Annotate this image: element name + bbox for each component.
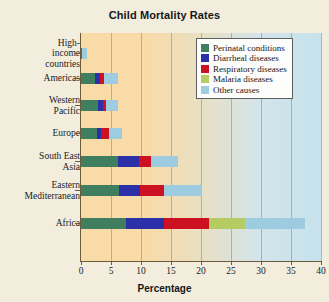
y-axis-label-line: Eastern bbox=[0, 180, 80, 191]
bar-segment bbox=[151, 156, 178, 167]
chart-legend: Perinatal conditionsDiarrheal diseasesRe… bbox=[196, 38, 293, 99]
x-axis-tick-label: 20 bbox=[189, 266, 213, 276]
y-axis-label-line: Western bbox=[0, 95, 80, 106]
x-axis-tick bbox=[171, 261, 172, 265]
y-axis-tick bbox=[75, 53, 81, 54]
legend-label: Diarrheal diseases bbox=[213, 53, 279, 63]
x-axis-tick-label: 30 bbox=[249, 266, 273, 276]
legend-label: Perinatal conditions bbox=[213, 43, 285, 53]
y-axis-label-line: Mediterranean bbox=[0, 191, 80, 202]
bar-europe[interactable] bbox=[81, 128, 122, 139]
y-axis-label-line: income bbox=[0, 48, 80, 59]
bar-segment bbox=[140, 185, 165, 196]
y-axis-label-line: Europe bbox=[0, 128, 80, 139]
legend-item[interactable]: Other causes bbox=[201, 85, 287, 95]
bar-south-east-asia[interactable] bbox=[81, 156, 178, 167]
legend-swatch-icon bbox=[201, 54, 209, 62]
bar-high-income-countries[interactable] bbox=[81, 48, 87, 59]
x-axis-tick bbox=[81, 261, 82, 265]
bar-segment bbox=[245, 218, 305, 229]
y-axis-label: Americas bbox=[0, 73, 80, 84]
y-axis-label: Africa bbox=[0, 218, 80, 229]
x-axis-tick-label: 5 bbox=[99, 266, 123, 276]
legend-item[interactable]: Malaria diseases bbox=[201, 74, 287, 84]
y-axis-label-line: High- bbox=[0, 38, 80, 49]
legend-item[interactable]: Perinatal conditions bbox=[201, 43, 287, 53]
bar-segment bbox=[126, 218, 164, 229]
bar-segment bbox=[106, 100, 117, 111]
x-axis-tick bbox=[261, 261, 262, 265]
bar-segment bbox=[209, 218, 244, 229]
bar-segment bbox=[82, 48, 87, 59]
y-axis-label: EasternMediterranean bbox=[0, 180, 80, 201]
legend-label: Malaria diseases bbox=[213, 74, 273, 84]
bar-eastern-mediterranean[interactable] bbox=[81, 185, 202, 196]
legend-label: Other causes bbox=[213, 85, 259, 95]
legend-swatch-icon bbox=[201, 75, 209, 83]
bar-segment bbox=[139, 156, 151, 167]
legend-swatch-icon bbox=[201, 44, 209, 52]
y-axis-tick bbox=[75, 105, 81, 106]
bar-africa[interactable] bbox=[81, 218, 305, 229]
chart-container: Child Mortality Rates High-incomecountri… bbox=[0, 0, 329, 302]
x-axis-tick-label: 40 bbox=[309, 266, 329, 276]
x-axis-tick bbox=[201, 261, 202, 265]
legend-swatch-icon bbox=[201, 65, 209, 73]
bar-segment bbox=[104, 73, 117, 84]
y-axis-label-line: Asia bbox=[0, 162, 80, 173]
bar-americas[interactable] bbox=[81, 73, 118, 84]
x-axis-tick-label: 15 bbox=[159, 266, 183, 276]
y-axis-label: High-incomecountries bbox=[0, 38, 80, 70]
x-axis-tick-label: 0 bbox=[69, 266, 93, 276]
x-axis-tick bbox=[291, 261, 292, 265]
bar-segment bbox=[81, 156, 118, 167]
y-axis-label-line: Americas bbox=[0, 73, 80, 84]
legend-label: Respiratory diseases bbox=[213, 64, 287, 74]
legend-swatch-icon bbox=[201, 86, 209, 94]
gridline bbox=[321, 33, 322, 261]
bar-western-pacific[interactable] bbox=[81, 100, 118, 111]
y-axis-tick bbox=[75, 78, 81, 79]
x-axis-tick-label: 25 bbox=[219, 266, 243, 276]
bar-segment bbox=[101, 128, 109, 139]
y-axis-tick bbox=[75, 190, 81, 191]
bar-segment bbox=[81, 218, 126, 229]
chart-title: Child Mortality Rates bbox=[0, 9, 329, 21]
x-axis-tick bbox=[141, 261, 142, 265]
y-axis-label: WesternPacific bbox=[0, 95, 80, 116]
y-axis-label-line: Africa bbox=[0, 218, 80, 229]
y-axis-tick bbox=[75, 161, 81, 162]
x-axis-title: Percentage bbox=[0, 283, 329, 294]
y-axis-tick bbox=[75, 133, 81, 134]
legend-item[interactable]: Diarrheal diseases bbox=[201, 53, 287, 63]
y-axis-label-line: Pacific bbox=[0, 106, 80, 117]
bar-segment bbox=[118, 156, 139, 167]
y-axis-label: South EastAsia bbox=[0, 151, 80, 172]
x-axis-tick bbox=[111, 261, 112, 265]
bar-segment bbox=[164, 185, 201, 196]
x-axis-tick-label: 35 bbox=[279, 266, 303, 276]
y-axis-tick bbox=[75, 223, 81, 224]
bar-segment bbox=[164, 218, 210, 229]
legend-item[interactable]: Respiratory diseases bbox=[201, 64, 287, 74]
bar-segment bbox=[119, 185, 140, 196]
x-axis-tick bbox=[321, 261, 322, 265]
bar-segment bbox=[81, 128, 97, 139]
bar-segment bbox=[109, 128, 122, 139]
bar-segment bbox=[81, 100, 98, 111]
x-axis-tick-label: 10 bbox=[129, 266, 153, 276]
y-axis-label: Europe bbox=[0, 128, 80, 139]
bar-segment bbox=[81, 73, 95, 84]
y-axis-line bbox=[80, 33, 81, 261]
x-axis-tick bbox=[231, 261, 232, 265]
y-axis-label-line: South East bbox=[0, 151, 80, 162]
bar-segment bbox=[81, 185, 119, 196]
y-axis-label-line: countries bbox=[0, 59, 80, 70]
